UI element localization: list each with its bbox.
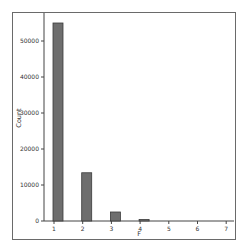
bar-chart: 01000020000300004000050000 1234567 Count… [0,0,247,249]
x-tick-label: 2 [81,225,85,232]
bar [82,173,92,221]
y-axis-title: Count [15,108,23,128]
x-tick-label: 1 [52,225,56,232]
bar [139,220,149,222]
x-tick-label: 7 [224,225,228,232]
y-axis: 01000020000300004000050000 [20,13,44,224]
y-tick-label: 0 [35,217,39,224]
bar [53,23,63,221]
x-axis-title: F [137,230,141,238]
bars [53,23,149,221]
x-tick-label: 5 [167,225,171,232]
bar [110,212,120,221]
x-tick-label: 6 [196,225,200,232]
y-tick-label: 20000 [20,145,39,152]
y-tick-label: 10000 [20,181,39,188]
y-tick-label: 40000 [20,73,39,80]
x-tick-label: 3 [109,225,113,232]
y-tick-label: 50000 [20,37,39,44]
